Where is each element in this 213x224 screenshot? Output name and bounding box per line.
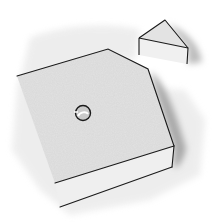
illustration-canvas [0,0,213,224]
